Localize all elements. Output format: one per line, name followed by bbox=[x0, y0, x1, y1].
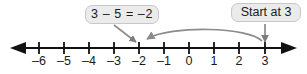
tick-label--6: –6 bbox=[26, 55, 52, 68]
tick-label--4: –4 bbox=[76, 55, 102, 68]
tick-label-2: 2 bbox=[226, 55, 252, 68]
axis-right-arrowhead bbox=[281, 42, 297, 54]
axis-left-arrowhead bbox=[10, 42, 26, 54]
equation-callout-label: 3 – 5 = –2 bbox=[85, 5, 159, 24]
number-line-axis bbox=[10, 42, 297, 54]
jump-arc-arrow bbox=[147, 29, 262, 41]
tick-label--1: –1 bbox=[151, 55, 177, 68]
tick-label-3: 3 bbox=[252, 55, 278, 68]
number-line-diagram: 3 – 5 = –2 Start at 3 –6 –5 –4 –3 –2 –1 … bbox=[0, 0, 307, 74]
tick-label--5: –5 bbox=[51, 55, 77, 68]
tick-label--2: –2 bbox=[126, 55, 152, 68]
equation-leader-arrow bbox=[114, 25, 136, 42]
tick-label-1: 1 bbox=[201, 55, 227, 68]
start-callout-label: Start at 3 bbox=[231, 3, 301, 22]
tick-label-0: 0 bbox=[176, 55, 202, 68]
tick-label--3: –3 bbox=[101, 55, 127, 68]
